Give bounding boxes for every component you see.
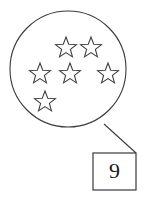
counting-figure: 9 xyxy=(0,0,148,208)
figure-canvas: 9 xyxy=(0,0,148,208)
leader-line xyxy=(104,124,136,153)
answer-box-value: 9 xyxy=(109,158,120,183)
